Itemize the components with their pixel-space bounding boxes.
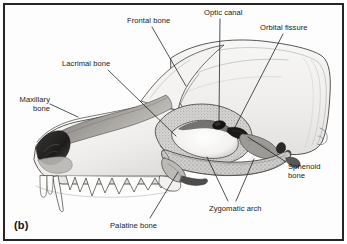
skull-illustration: [0, 0, 347, 244]
label-frontal-bone: Frontal bone: [127, 17, 170, 26]
label-maxillary-bone-line2: bone: [33, 104, 50, 113]
figure-tag: (b): [14, 219, 29, 231]
label-sphenoid-bone: Sphenoid bone: [288, 163, 340, 180]
label-zygomatic-arch: Zygomatic arch: [209, 205, 262, 214]
premolar-row: [66, 176, 167, 196]
label-orbital-fissure: Orbital fissure: [260, 24, 308, 33]
figure-panel: Frontal bone Optic canal Orbital fissure…: [0, 0, 347, 244]
label-sphenoid-bone-line2: bone: [288, 171, 305, 180]
label-palatine-bone: Palatine bone: [110, 222, 157, 231]
label-optic-canal: Optic canal: [204, 9, 243, 18]
leader-maxillary-bone: [50, 104, 78, 117]
label-maxillary-bone: Maxillary bone: [0, 96, 50, 113]
label-lacrimal-bone: Lacrimal bone: [62, 60, 110, 69]
